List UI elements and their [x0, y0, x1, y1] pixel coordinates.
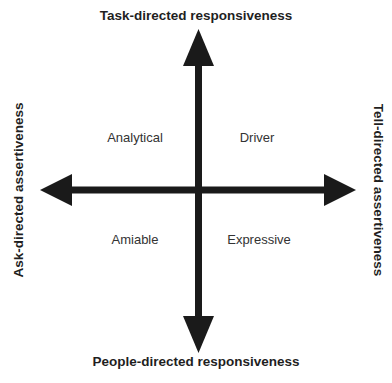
axis-label-people-directed: People-directed responsiveness [0, 354, 392, 369]
axis-label-ask-directed: Ask-directed assertiveness [11, 103, 26, 278]
arrow-right-icon [324, 174, 356, 206]
axes-arrows [0, 0, 392, 383]
arrow-left-icon [40, 174, 72, 206]
arrow-down-icon [183, 316, 214, 353]
axis-label-task-directed: Task-directed responsiveness [0, 8, 392, 23]
quadrant-amiable: Amiable [112, 232, 159, 247]
arrow-up-icon [183, 29, 214, 66]
axis-label-tell-directed: Tell-directed assertiveness [371, 104, 386, 276]
social-styles-quadrant-diagram: Task-directed responsiveness People-dire… [0, 0, 392, 383]
quadrant-analytical: Analytical [107, 130, 163, 145]
quadrant-expressive: Expressive [227, 232, 291, 247]
quadrant-driver: Driver [240, 130, 275, 145]
